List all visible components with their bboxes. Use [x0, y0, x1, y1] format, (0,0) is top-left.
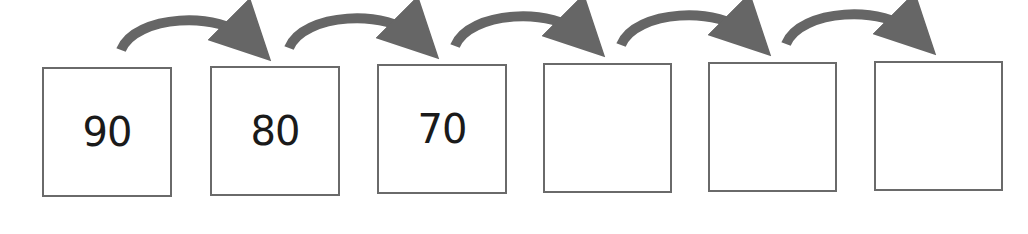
number-sequence-diagram: 90 80 70 — [0, 0, 1028, 234]
sequence-box-1: 90 — [42, 67, 172, 197]
arrow-icon-3 — [455, 16, 584, 46]
sequence-box-5-blank[interactable] — [708, 62, 837, 192]
box-value: 90 — [83, 109, 132, 155]
box-value: 80 — [251, 108, 300, 154]
sequence-box-2: 80 — [210, 66, 340, 196]
sequence-box-3: 70 — [377, 64, 507, 194]
arrow-icon-2 — [289, 18, 418, 48]
box-value: 70 — [418, 106, 467, 152]
arrow-icon-5 — [786, 14, 915, 44]
arrow-icon-4 — [621, 15, 750, 45]
sequence-box-6-blank[interactable] — [874, 61, 1003, 191]
sequence-box-4-blank[interactable] — [543, 63, 672, 193]
arrow-icon-1 — [121, 20, 250, 50]
